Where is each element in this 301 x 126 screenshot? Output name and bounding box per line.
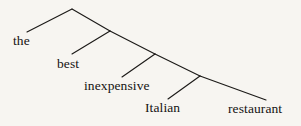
edge-root-n2	[72, 9, 110, 31]
edge-n3-inexpensive	[122, 54, 155, 77]
leaf-inexpensive: inexpensive	[84, 79, 150, 93]
edge-root-the	[27, 9, 72, 32]
leaf-restaurant: restaurant	[228, 102, 282, 116]
syntax-tree-figure: thebestinexpensiveItalianrestaurant	[0, 0, 301, 126]
edge-n4-restaurant	[200, 76, 266, 100]
leaf-the: the	[13, 34, 30, 48]
leaf-best: best	[57, 57, 79, 71]
edge-n4-italian	[168, 76, 200, 99]
edge-n3-n4	[155, 54, 200, 76]
edge-n2-n3	[110, 31, 155, 54]
edge-n2-best	[72, 31, 110, 54]
leaf-italian: Italian	[145, 101, 180, 115]
